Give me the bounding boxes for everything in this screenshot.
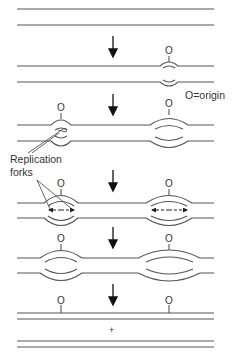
origin-marker: O bbox=[165, 99, 173, 109]
stage-3-dna bbox=[17, 109, 214, 153]
origin-marker: O bbox=[165, 234, 173, 244]
origin-marker: O bbox=[57, 234, 65, 244]
plus-sign: + bbox=[109, 324, 114, 336]
stage-6-dna bbox=[17, 305, 214, 347]
stage-2-dna bbox=[17, 56, 214, 86]
forks-label-line2: forks bbox=[10, 166, 33, 178]
origin-legend: O=origin bbox=[185, 89, 225, 101]
stage-1-dna bbox=[17, 9, 214, 25]
replication-diagram bbox=[0, 0, 235, 358]
step-arrow-2 bbox=[109, 94, 117, 115]
step-arrow-5 bbox=[109, 284, 117, 305]
origin-marker: O bbox=[165, 179, 173, 189]
origin-marker: O bbox=[165, 296, 173, 306]
origin-marker: O bbox=[165, 46, 173, 56]
origin-marker: O bbox=[57, 296, 65, 306]
origin-marker: O bbox=[57, 103, 65, 113]
step-arrow-3 bbox=[109, 170, 117, 191]
origin-marker: O bbox=[57, 179, 65, 189]
step-arrow-1 bbox=[109, 36, 117, 57]
step-arrow-4 bbox=[109, 227, 117, 248]
forks-label-line1: Replication bbox=[10, 153, 62, 165]
stage-5-dna bbox=[17, 244, 214, 281]
